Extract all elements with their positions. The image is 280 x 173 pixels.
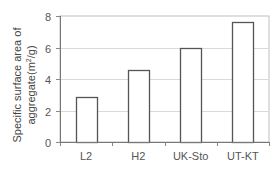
bars <box>77 23 254 143</box>
bar-h2 <box>129 71 150 143</box>
bar-ut-kt <box>233 23 254 143</box>
x-tick-label: UT-KT <box>227 150 259 162</box>
x-tick-label: L2 <box>80 150 92 162</box>
y-tick-label: 8 <box>45 11 51 23</box>
bar-uk-sto <box>181 49 202 143</box>
x-tick-labels: L2H2UK-StoUT-KT <box>80 150 259 162</box>
y-tick-label: 4 <box>45 74 51 86</box>
y-tick-labels: 02468 <box>45 11 51 149</box>
x-tick-label: UK-Sto <box>173 150 208 162</box>
y-tick-label: 6 <box>45 43 51 55</box>
y-tick-label: 0 <box>45 137 51 149</box>
bar-l2 <box>77 98 98 143</box>
bar-chart: 02468 L2H2UK-StoUT-KT <box>0 0 280 173</box>
x-tick-label: H2 <box>131 150 145 162</box>
y-tick-label: 2 <box>45 106 51 118</box>
